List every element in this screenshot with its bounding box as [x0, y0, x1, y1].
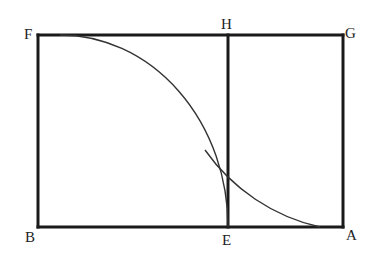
label-F: F	[24, 26, 32, 42]
label-A: A	[346, 227, 357, 243]
label-G: G	[345, 25, 356, 41]
arc-A-upward	[205, 150, 320, 227]
label-B: B	[25, 229, 35, 245]
label-H: H	[221, 16, 232, 32]
arc-F-to-E	[60, 35, 228, 227]
label-E: E	[222, 232, 231, 248]
geometry-diagram: F H G B E A	[0, 0, 371, 258]
